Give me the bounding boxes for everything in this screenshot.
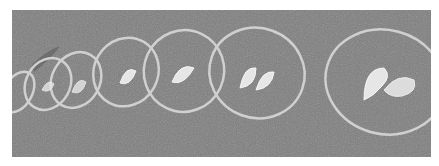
hoops-footprints-scene — [12, 10, 431, 157]
grass-photo — [12, 10, 431, 157]
